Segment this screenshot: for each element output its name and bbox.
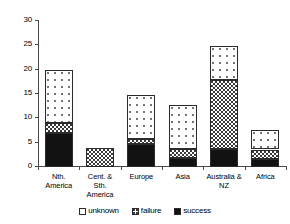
legend-swatch-success-icon	[174, 208, 181, 215]
bar-group[interactable]	[45, 21, 73, 167]
bar-segment-unknown[interactable]	[251, 130, 279, 150]
bar-group[interactable]	[251, 21, 279, 167]
x-axis-label-line: Africa	[237, 172, 290, 181]
bar-segment-failure[interactable]	[45, 123, 73, 133]
x-tick-mark	[286, 166, 287, 170]
chart-legend: unknownfailuresuccess	[0, 207, 290, 215]
bar-segment-success[interactable]	[127, 144, 155, 167]
legend-item-success[interactable]: success	[174, 207, 211, 215]
bar-segment-success[interactable]	[210, 149, 238, 167]
y-tick-label: 5	[4, 138, 32, 146]
x-axis-labels: Nth.AmericaCent. &Sth.AmericaEuropeAsiaA…	[38, 172, 286, 212]
bar-segment-success[interactable]	[45, 133, 73, 167]
bar-segment-unknown[interactable]	[210, 46, 238, 80]
legend-label: unknown	[88, 207, 119, 215]
bar-segment-failure[interactable]	[86, 148, 114, 167]
stacked-bar-chart: 051015202530 Nth.AmericaCent. &Sth.Ameri…	[0, 0, 290, 224]
bar-series-area	[38, 20, 286, 167]
bar-group[interactable]	[127, 21, 155, 167]
legend-label: failure	[141, 207, 161, 215]
legend-label: success	[183, 207, 211, 215]
y-tick-label: 20	[4, 65, 32, 73]
x-axis-label-line: NZ	[196, 181, 252, 190]
bar-group[interactable]	[210, 21, 238, 167]
x-axis-label-line: America	[72, 190, 128, 199]
y-tick-label: 0	[4, 162, 32, 170]
bar-segment-unknown[interactable]	[127, 95, 155, 139]
bar-segment-failure[interactable]	[210, 80, 238, 148]
bar-segment-success[interactable]	[251, 159, 279, 167]
bar-segment-unknown[interactable]	[169, 105, 197, 149]
bar-group[interactable]	[169, 21, 197, 167]
legend-item-unknown[interactable]: unknown	[79, 207, 119, 215]
y-tick-label: 10	[4, 113, 32, 121]
bar-segment-failure[interactable]	[127, 139, 155, 144]
y-tick-label: 25	[4, 40, 32, 48]
y-tick-label: 30	[4, 16, 32, 24]
x-axis-label-line: Sth.	[72, 181, 128, 190]
legend-swatch-failure-icon	[132, 208, 139, 215]
bar-group[interactable]	[86, 21, 114, 167]
legend-item-failure[interactable]: failure	[132, 207, 161, 215]
bar-segment-failure[interactable]	[169, 149, 197, 158]
x-axis-label: Africa	[237, 172, 290, 181]
bar-segment-failure[interactable]	[251, 150, 279, 159]
legend-swatch-unknown-icon	[79, 208, 86, 215]
y-tick-label: 15	[4, 89, 32, 97]
bar-segment-unknown[interactable]	[45, 70, 73, 124]
bar-segment-success[interactable]	[169, 158, 197, 167]
